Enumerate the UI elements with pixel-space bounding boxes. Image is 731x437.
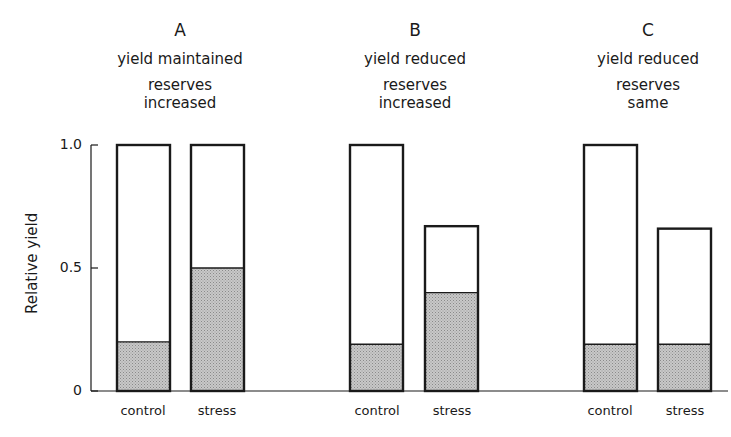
reserves-shaded-segment xyxy=(425,293,478,391)
x-label-c-control: control xyxy=(575,403,645,418)
x-label-a-control: control xyxy=(108,403,178,418)
x-label-b-control: control xyxy=(342,403,412,418)
reserves-shaded-segment xyxy=(658,344,711,391)
x-label-b-stress: stress xyxy=(417,403,487,418)
x-label-a-stress: stress xyxy=(182,403,252,418)
reserves-shaded-segment xyxy=(350,344,403,391)
plot-area xyxy=(0,0,731,437)
reserves-shaded-segment xyxy=(191,268,244,391)
reserves-shaded-segment xyxy=(117,342,170,391)
reserves-shaded-segment xyxy=(584,344,637,391)
x-label-c-stress: stress xyxy=(650,403,720,418)
